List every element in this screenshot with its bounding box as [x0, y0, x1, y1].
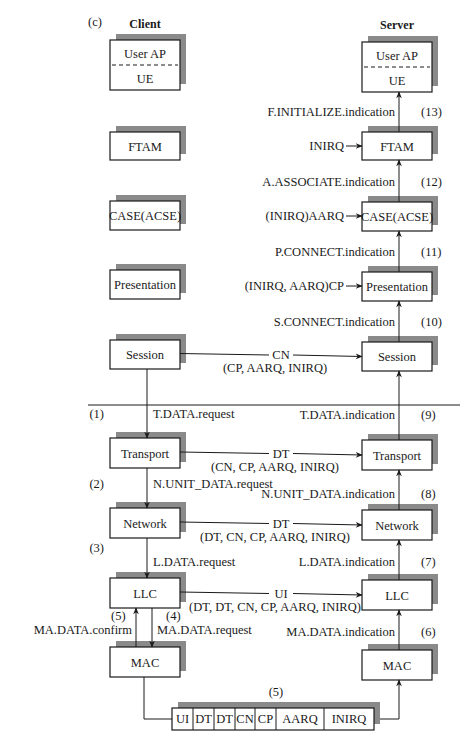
client-primitive-label: L.DATA.request: [153, 555, 236, 569]
pdu-contents: (DT, CN, CP, AARQ, INIRQ): [200, 530, 350, 544]
peer-arrow: [293, 594, 362, 596]
figure-label: (c): [88, 15, 102, 29]
server-column-title: Server: [380, 18, 415, 32]
server-user-ap-box: User APUE: [362, 36, 438, 92]
step-number: (12): [421, 175, 442, 189]
box-label: MAC: [131, 656, 159, 670]
box-label: CASE(ACSE): [109, 209, 181, 223]
step-number: (6): [421, 625, 436, 639]
server-primitive-label: N.UNIT_DATA.indication: [261, 487, 395, 501]
box-label: FTAM: [128, 140, 162, 154]
server-session-box: Session: [362, 336, 438, 371]
client-presentation-box: Presentation: [110, 264, 186, 299]
box-label: Transport: [121, 447, 170, 461]
mac-frame: UIDTDTCNCPAARQINIRQ(5): [172, 685, 380, 730]
server-transport-box: Transport: [362, 434, 438, 470]
pdu-name: DT: [273, 447, 290, 461]
peer-line: [180, 592, 269, 594]
ma-confirm-label: MA.DATA.confirm: [34, 623, 133, 637]
client-network-box: Network: [110, 502, 186, 538]
box-sublabel: UE: [137, 72, 154, 86]
step-number: (13): [421, 105, 442, 119]
client-llc-box: LLC: [110, 572, 186, 608]
osi-protocol-exchange-diagram: (c) Client Server User APUEUser APUEFTAM…: [0, 0, 469, 753]
frame-step-number: (5): [269, 685, 284, 699]
box-label: Transport: [373, 449, 422, 463]
server-primitive-label: F.INITIALIZE.indication: [268, 105, 396, 119]
frame-field: DT: [195, 712, 212, 726]
server-input-label: (INIRQ)AARQ: [266, 209, 344, 223]
box-label: Session: [378, 350, 417, 364]
server-primitive-label: A.ASSOCIATE.indication: [262, 175, 395, 189]
client-user-ap-box: User APUE: [110, 34, 186, 90]
server-presentation-box: Presentation: [362, 266, 438, 301]
box-label: MAC: [383, 659, 411, 673]
peer-arrow: [293, 355, 362, 357]
server-input-label: INIRQ: [309, 139, 344, 153]
frame-field: INIRQ: [332, 712, 367, 726]
pdu-contents: (CP, AARQ, INIRQ): [223, 361, 327, 375]
peer-line: [180, 354, 269, 356]
client-medium-line: [144, 677, 172, 719]
box-label: User AP: [376, 49, 418, 63]
client-transport-box: Transport: [110, 432, 186, 468]
box-label: CASE(ACSE): [361, 210, 433, 224]
server-primitive-label: P.CONNECT.indication: [275, 245, 396, 259]
box-label: LLC: [385, 589, 409, 603]
pdu-contents: (CN, CP, AARQ, INIRQ): [211, 460, 339, 474]
client-session-box: Session: [110, 334, 186, 369]
pdu-name: CN: [272, 348, 289, 362]
box-label: LLC: [133, 587, 157, 601]
step-number: (1): [89, 407, 104, 421]
step-number: (4): [166, 609, 181, 623]
server-network-box: Network: [362, 504, 438, 540]
step-number: (11): [421, 245, 441, 259]
server-primitive-label: L.DATA.indication: [299, 555, 396, 569]
peer-arrow: [293, 524, 362, 526]
ma-request-label: MA.DATA.request: [157, 623, 252, 637]
client-case-box: CASE(ACSE): [109, 195, 186, 230]
pdu-name: DT: [273, 517, 290, 531]
step-number: (7): [421, 555, 436, 569]
box-label: Session: [126, 348, 165, 362]
client-column-title: Client: [129, 17, 160, 31]
peer-arrow: [293, 454, 362, 456]
server-llc-box: LLC: [362, 574, 438, 610]
pdu-name: UI: [274, 587, 287, 601]
server-primitive-label: MA.DATA.indication: [286, 625, 395, 639]
peer-line: [180, 452, 269, 454]
server-input-label: (INIRQ, AARQ)CP: [245, 279, 344, 293]
server-ftam-box: FTAM: [362, 126, 438, 160]
frame-field: CP: [258, 712, 273, 726]
step-number: (3): [89, 541, 104, 555]
server-primitive-label: S.CONNECT.indication: [274, 315, 396, 329]
frame-field: DT: [216, 712, 233, 726]
client-primitive-label: N.UNIT_DATA.request: [153, 477, 273, 491]
peer-line: [180, 522, 269, 524]
client-primitive-label: T.DATA.request: [153, 407, 235, 421]
primitive-labels: F.INITIALIZE.indication(13)A.ASSOCIATE.i…: [34, 105, 442, 639]
box-sublabel: UE: [389, 74, 406, 88]
step-number: (10): [421, 315, 442, 329]
server-primitive-label: T.DATA.indication: [300, 408, 396, 422]
client-ftam-box: FTAM: [110, 126, 186, 160]
box-label: Presentation: [366, 280, 429, 294]
frame-field: UI: [176, 712, 189, 726]
frame-field: AARQ: [282, 712, 317, 726]
step-number: (8): [421, 487, 436, 501]
box-label: User AP: [124, 47, 166, 61]
server-mac-box: MAC: [362, 644, 438, 680]
box-label: Network: [375, 519, 419, 533]
box-label: Network: [123, 517, 167, 531]
frame-field: CN: [236, 712, 253, 726]
box-label: Presentation: [114, 278, 177, 292]
box-label: FTAM: [380, 140, 414, 154]
client-mac-box: MAC: [110, 641, 186, 677]
step-number: (5): [111, 609, 126, 623]
step-number: (2): [89, 477, 104, 491]
pdu-contents: (DT, DT, CN, CP, AARQ, INIRQ): [189, 600, 361, 614]
step-number: (9): [421, 408, 436, 422]
